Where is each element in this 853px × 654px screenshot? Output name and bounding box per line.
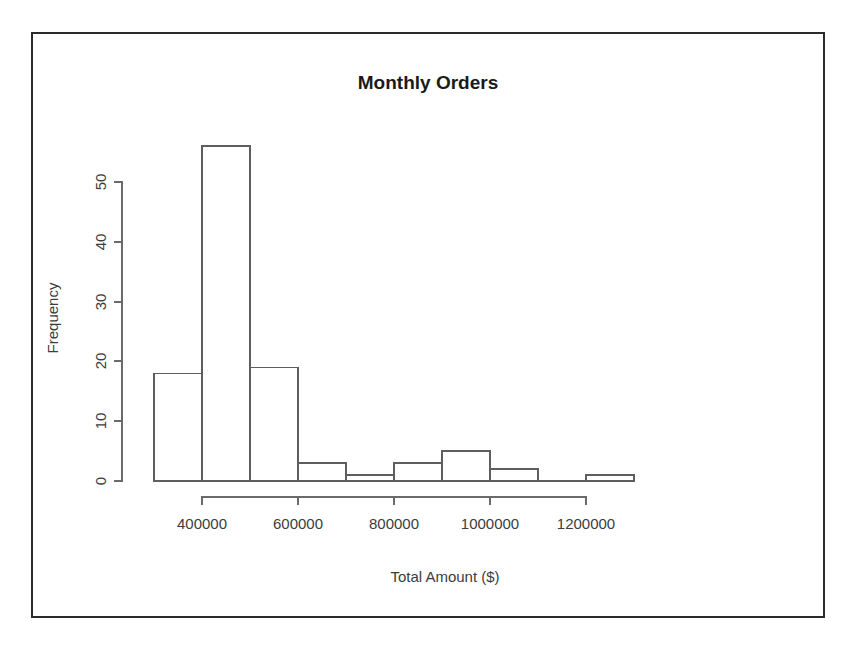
histogram-bars xyxy=(154,146,634,481)
histogram-bar xyxy=(154,373,202,481)
y-axis: 50 40 30 20 10 0 xyxy=(92,174,123,486)
histogram-bar xyxy=(394,463,442,481)
x-tick-label-800000: 800000 xyxy=(369,515,419,532)
histogram-bar xyxy=(586,475,634,481)
chart-title: Monthly Orders xyxy=(358,72,498,93)
x-tick-label-1200000: 1200000 xyxy=(557,515,615,532)
x-tick-label-400000: 400000 xyxy=(177,515,227,532)
y-axis-line xyxy=(114,182,122,481)
histogram-bar xyxy=(202,146,250,481)
histogram-bar xyxy=(346,475,394,481)
x-tick-label-1000000: 1000000 xyxy=(461,515,519,532)
histogram-plot: Monthly Orders Frequency Total Amount ($… xyxy=(0,0,853,654)
y-tick-label-0: 0 xyxy=(92,477,109,485)
x-axis-title: Total Amount ($) xyxy=(390,568,499,585)
y-tick-label-50: 50 xyxy=(92,174,109,191)
y-axis-title: Frequency xyxy=(44,282,61,353)
histogram-bar xyxy=(250,367,298,481)
histogram-bar xyxy=(298,463,346,481)
y-tick-label-20: 20 xyxy=(92,353,109,370)
y-tick-label-40: 40 xyxy=(92,234,109,251)
histogram-bar xyxy=(442,451,490,481)
histogram-bar xyxy=(490,469,538,481)
x-tick-label-600000: 600000 xyxy=(273,515,323,532)
y-tick-label-10: 10 xyxy=(92,413,109,430)
screenshot-page: Monthly Orders Frequency Total Amount ($… xyxy=(0,0,853,654)
x-axis: 400000 600000 800000 1000000 1200000 xyxy=(177,497,615,532)
y-tick-label-30: 30 xyxy=(92,294,109,311)
